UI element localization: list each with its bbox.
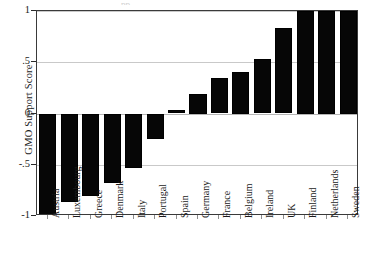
bar-belgium — [232, 72, 249, 114]
y-tick-mark — [31, 10, 36, 11]
x-tick-label-sweden: Sweden — [351, 186, 361, 218]
x-tick-label-france: France — [222, 191, 232, 218]
x-tick-mark — [347, 215, 348, 219]
y-tick-mark — [31, 164, 36, 165]
x-tick-label-denmark: Denmark — [115, 181, 125, 218]
bar-ireland — [254, 59, 271, 113]
x-tick-mark — [283, 215, 284, 219]
x-tick-mark — [240, 215, 241, 219]
gmo-support-score-bar-chart: pp GMO Support Score 1.50-.5-1 AustriaLu… — [0, 0, 367, 280]
x-tick-label-finland: Finland — [308, 187, 318, 218]
x-tick-mark — [68, 215, 69, 219]
x-tick-mark — [111, 215, 112, 219]
x-tick-mark — [47, 215, 48, 219]
x-tick-mark — [154, 215, 155, 219]
x-tick-label-netherlands: Netherlands — [330, 170, 340, 218]
y-tick-label: 0 — [2, 108, 30, 118]
bar-sweden — [340, 11, 357, 114]
y-tick-label: -.5 — [2, 159, 30, 169]
x-tick-label-austria: Austria — [51, 189, 61, 218]
bar-uk — [275, 28, 292, 113]
y-tick-mark — [31, 215, 36, 216]
y-tick-mark — [31, 113, 36, 114]
bar-france — [211, 78, 228, 114]
bar-italy — [125, 114, 142, 168]
plot-area — [36, 10, 358, 215]
x-tick-label-uk: UK — [287, 204, 297, 218]
x-tick-mark — [133, 215, 134, 219]
bar-germany — [189, 94, 206, 114]
y-tick-label: 1 — [2, 5, 30, 15]
x-tick-mark — [218, 215, 219, 219]
x-tick-label-belgium: Belgium — [244, 184, 254, 218]
y-tick-label: .5 — [2, 56, 30, 66]
x-tick-label-italy: Italy — [137, 200, 147, 218]
x-tick-label-spain: Spain — [180, 195, 190, 218]
x-tick-label-portugal: Portugal — [158, 184, 168, 218]
x-tick-mark — [90, 215, 91, 219]
x-tick-mark — [326, 215, 327, 219]
x-tick-label-luxembourg: Luxembourg — [72, 167, 82, 218]
y-tick-label: -1 — [2, 210, 30, 220]
cropped-title-artifact: pp — [121, 0, 147, 5]
bar-greece — [82, 114, 99, 196]
bar-portugal — [147, 114, 164, 140]
x-tick-label-greece: Greece — [94, 190, 104, 218]
x-tick-mark — [197, 215, 198, 219]
x-axis-tick-labels: AustriaLuxembourgGreeceDenmarkItalyPortu… — [36, 216, 358, 280]
x-tick-mark — [304, 215, 305, 219]
bar-finland — [297, 11, 314, 114]
bar-spain — [168, 110, 185, 113]
bar-netherlands — [318, 11, 335, 114]
y-axis-tick-labels: 1.50-.5-1 — [0, 0, 30, 225]
x-tick-label-germany: Germany — [201, 181, 211, 218]
bar-denmark — [104, 114, 121, 184]
x-tick-mark — [261, 215, 262, 219]
x-tick-label-ireland: Ireland — [265, 190, 275, 218]
y-tick-mark — [31, 61, 36, 62]
x-tick-mark — [176, 215, 177, 219]
